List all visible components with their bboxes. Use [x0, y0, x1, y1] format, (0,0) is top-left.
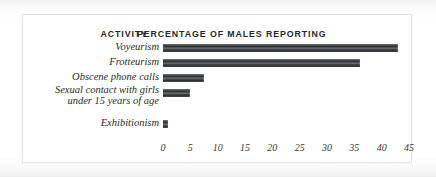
x-tick-label: 25	[295, 142, 305, 153]
bar-row-label: Exhibitionism	[0, 117, 159, 128]
x-tick-label: 5	[188, 142, 193, 153]
x-tick-label: 30	[322, 142, 332, 153]
x-axis: 051015202530354045	[163, 142, 409, 156]
bar-row-label: Sexual contact with girls under 15 years…	[0, 84, 159, 106]
x-tick-label: 40	[377, 142, 387, 153]
bar-row: Sexual contact with girls under 15 years…	[23, 86, 411, 101]
bar-row: Voyeurism	[23, 41, 411, 56]
bar-rows: VoyeurismFrotteurismObscene phone callsS…	[23, 15, 411, 162]
x-tick-label: 0	[161, 142, 166, 153]
chart-frame: ACTIVITY PERCENTAGE OF MALES REPORTING V…	[22, 14, 412, 163]
x-tick-label: 10	[213, 142, 223, 153]
x-tick-label: 20	[267, 142, 277, 153]
chart-page: ACTIVITY PERCENTAGE OF MALES REPORTING V…	[0, 0, 436, 177]
bar	[163, 120, 168, 128]
x-tick-label: 45	[404, 142, 414, 153]
bar-row-label: Frotteurism	[0, 56, 159, 67]
x-tick-label: 15	[240, 142, 250, 153]
bar-row: Frotteurism	[23, 56, 411, 71]
bar	[163, 89, 190, 97]
bar-row: Exhibitionism	[23, 117, 411, 132]
bar	[163, 44, 398, 52]
bar-track	[163, 71, 409, 86]
bar-row-label: Obscene phone calls	[0, 71, 159, 82]
bar-track	[163, 117, 409, 132]
bar-track	[163, 41, 409, 56]
bar-track	[163, 86, 409, 101]
bar-row-label: Voyeurism	[0, 41, 159, 52]
bar	[163, 74, 204, 82]
bar	[163, 59, 360, 67]
x-tick-label: 35	[349, 142, 359, 153]
bar-track	[163, 56, 409, 71]
